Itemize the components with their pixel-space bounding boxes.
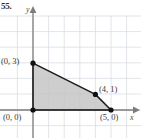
problem-number: 55. [1, 1, 12, 11]
point-0-3 [30, 61, 35, 66]
point-label-4-1: (4, 1) [99, 85, 117, 94]
point-label-5-0: (5, 0) [100, 113, 118, 122]
point-4-1 [93, 92, 98, 97]
x-axis-label: x [130, 114, 134, 122]
point-0-0 [30, 107, 35, 112]
point-label-0-3: (0, 3) [1, 57, 19, 66]
point-label-0-0: (0, 0) [3, 113, 21, 122]
y-axis-label: y [26, 6, 30, 14]
